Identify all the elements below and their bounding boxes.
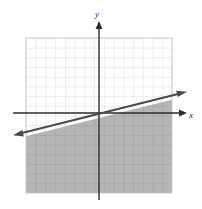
x-axis-label: x <box>188 110 193 120</box>
y-axis-label: y <box>94 9 99 19</box>
graph-figure: x y <box>0 0 202 209</box>
coordinate-plane-svg: x y <box>0 0 202 209</box>
